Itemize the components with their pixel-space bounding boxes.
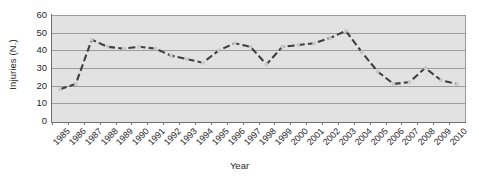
y-axis-tick-label: 60 [36,10,47,20]
x-axis-tick-mark [68,122,69,125]
x-axis-tick-mark [370,122,371,125]
x-axis-tick-mark [386,122,387,125]
x-axis-tick-mark [306,122,307,125]
data-point-marker [424,66,427,69]
x-axis-tick-mark [131,122,132,125]
data-point-marker [281,45,284,48]
data-point-marker [169,54,172,57]
y-axis-tick-label: 20 [36,81,47,91]
data-point-marker [360,50,363,53]
x-axis-tick-mark [290,122,291,125]
x-axis-title: Year [0,160,479,171]
x-axis-tick-labels: 1985198619871988198919901991199219931994… [52,126,465,160]
x-axis-tick-mark [211,122,212,125]
data-point-marker [249,45,252,48]
y-axis-tick-label: 0 [42,116,47,126]
x-axis-tick-mark [274,122,275,125]
data-point-marker [154,47,157,50]
x-axis-tick-mark [433,122,434,125]
x-axis-tick-mark [227,122,228,125]
x-axis-tick-mark [243,122,244,125]
y-axis-title-label: Injuries (N.) [7,39,18,89]
data-point-marker [312,42,315,45]
data-point-marker [138,45,141,48]
x-axis-tick-mark [417,122,418,125]
x-axis-tick-mark [401,122,402,125]
data-point-marker [297,43,300,46]
data-point-marker [122,47,125,50]
x-axis-tick-mark [259,122,260,125]
x-axis-tick-mark [338,122,339,125]
data-series-layer [52,15,465,121]
y-axis-tick-label: 50 [36,28,47,38]
y-axis-title: Injuries (N.) [0,0,24,128]
x-axis-tick-mark [147,122,148,125]
data-point-marker [439,79,442,82]
y-axis-tick-label: 10 [36,98,47,108]
x-axis-tick-mark [179,122,180,125]
data-point-marker [344,29,347,32]
data-point-marker [265,63,268,66]
data-point-marker [185,57,188,60]
y-axis-tick-label: 40 [36,45,47,55]
x-axis-tick-mark [449,122,450,125]
data-point-marker [376,70,379,73]
y-axis-tick-label: 30 [36,63,47,73]
data-point-marker [90,38,93,41]
x-axis-tick-mark [163,122,164,125]
data-point-marker [328,36,331,39]
data-point-marker [74,82,77,85]
x-axis-tick-mark [84,122,85,125]
x-axis-tick-mark [322,122,323,125]
data-point-marker [58,88,61,91]
data-point-marker [392,82,395,85]
x-axis-tick-mark [354,122,355,125]
data-point-marker [217,49,220,52]
y-axis-tick-labels: 0102030405060 [22,0,50,128]
data-point-marker [106,45,109,48]
x-axis-tick-mark [52,122,53,125]
x-axis-tick-mark [195,122,196,125]
x-axis-tick-mark [116,122,117,125]
data-point-marker [455,82,458,85]
data-point-marker [233,42,236,45]
data-point-marker [201,61,204,64]
data-point-marker [408,80,411,83]
injuries-by-year-line-chart: Injuries (N.) 0102030405060 198519861987… [0,0,479,178]
x-axis-tick-mark [100,122,101,125]
series-line-injuries [60,31,457,89]
